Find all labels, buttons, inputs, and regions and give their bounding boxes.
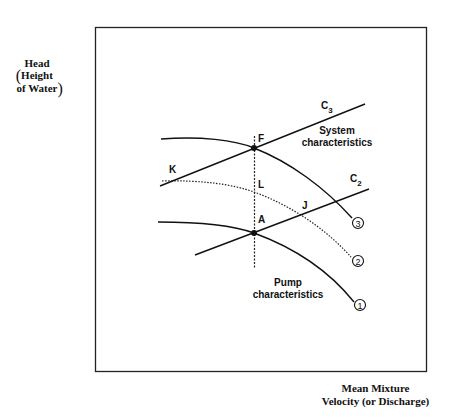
point-f-marker	[251, 145, 257, 151]
label-f: F	[258, 133, 264, 144]
diagram-canvas: F K L A J C3 C2 System characteristics P…	[0, 0, 451, 420]
curve-marker-2: 2	[353, 256, 364, 267]
svg-text:1: 1	[357, 301, 362, 311]
pump-char-line1: Pump	[274, 277, 302, 288]
plot-frame	[96, 28, 427, 372]
curve-marker-1: 1	[355, 300, 366, 311]
label-j: J	[302, 200, 308, 211]
label-l: L	[258, 179, 264, 190]
pump-curve-2	[162, 181, 351, 257]
svg-text:3: 3	[355, 219, 360, 229]
pump-char-line2: characteristics	[253, 289, 324, 300]
system-char-line1: System	[319, 125, 355, 136]
curve-marker-3: 3	[353, 218, 364, 229]
system-char-line2: characteristics	[302, 137, 373, 148]
svg-text:2: 2	[355, 257, 360, 267]
point-a-marker	[251, 230, 257, 236]
label-c3: C3	[321, 100, 333, 115]
label-c2: C2	[350, 173, 362, 188]
label-a: A	[258, 214, 265, 225]
label-k: K	[169, 164, 177, 175]
